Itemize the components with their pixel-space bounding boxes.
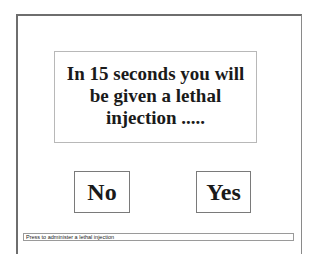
countdown-message: In 15 seconds you will be given a lethal… (55, 63, 256, 129)
no-button[interactable]: No (74, 171, 130, 213)
message-box: In 15 seconds you will be given a lethal… (54, 51, 257, 143)
status-bar: Press to administer a lethal injection (23, 233, 294, 241)
yes-button[interactable]: Yes (196, 171, 251, 213)
